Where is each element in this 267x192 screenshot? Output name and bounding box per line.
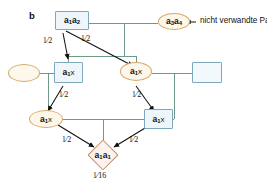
genotype-label-a3a4: a3a4	[166, 17, 182, 26]
node-founder-male[interactable]: a1a2	[55, 11, 89, 30]
legend-unrelated-partners: nicht verwandte Partner	[200, 16, 267, 25]
probability-left-top: 1⁄2	[43, 35, 52, 45]
genotype-label-a1x-gl: a1x	[40, 115, 52, 124]
probability-right-bottom: 1⁄2	[129, 134, 138, 144]
genotype-label-a1x-gr: a1x	[152, 115, 164, 124]
node-grandchild-left[interactable]: a1x	[29, 110, 63, 128]
genotype-label-a1x-left: a1x	[62, 68, 74, 77]
genotype-label-a1a1: a1a1	[95, 151, 111, 160]
probability-right-top: 1⁄2	[81, 33, 90, 43]
node-child-left[interactable]: a1x	[54, 62, 83, 83]
node-spouse-right[interactable]	[192, 62, 222, 83]
pedigree-diagram: b	[0, 0, 267, 192]
node-child-right[interactable]: a1x	[120, 62, 152, 81]
probability-left-bottom: 1⁄2	[62, 134, 71, 144]
probability-right-mid: 1⁄2	[132, 89, 141, 99]
genotype-label-a1a2: a1a2	[64, 16, 80, 25]
node-spouse-left[interactable]	[8, 64, 40, 82]
probability-final: 1⁄16	[93, 170, 106, 180]
node-grandchild-right[interactable]: a1x	[144, 109, 173, 129]
probability-left-mid: 1⁄2	[59, 89, 68, 99]
node-unrelated-mate[interactable]: a3a4	[158, 13, 190, 30]
genotype-label-a1x-right: a1x	[130, 67, 142, 76]
